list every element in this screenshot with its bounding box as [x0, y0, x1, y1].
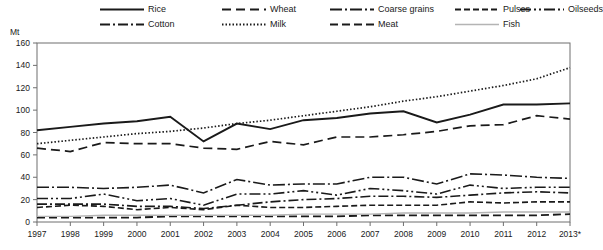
x-tick-label: 1997 — [28, 229, 47, 239]
y-tick-label: 60 — [21, 150, 31, 160]
plot-frame — [37, 43, 570, 222]
x-tick-label: 2008 — [394, 229, 413, 239]
y-tick-label: 120 — [16, 83, 30, 93]
x-tick-label: 2001 — [161, 229, 180, 239]
x-tick-label: 2002 — [194, 229, 213, 239]
x-tick-label: 2010 — [461, 229, 480, 239]
x-tick-label: 2004 — [261, 229, 280, 239]
y-tick-label: 40 — [21, 172, 31, 182]
y-tick-label: 100 — [16, 105, 30, 115]
x-tick-label: 2003 — [227, 229, 246, 239]
x-tick-label: 2000 — [127, 229, 146, 239]
x-tick-label: 2006 — [327, 229, 346, 239]
y-tick-label: 20 — [21, 195, 31, 205]
y-tick-label: 80 — [21, 128, 31, 138]
y-tick-label: 140 — [16, 60, 30, 70]
y-tick-label: 160 — [16, 38, 30, 48]
series-line-rice — [37, 103, 570, 141]
x-tick-label: 1998 — [61, 229, 80, 239]
x-tick-label: 2005 — [294, 229, 313, 239]
x-tick-label: 2011 — [494, 229, 513, 239]
x-tick-label: 1999 — [94, 229, 113, 239]
x-tick-label: 2009 — [427, 229, 446, 239]
series-line-cotton — [37, 192, 570, 209]
x-tick-label: 2013* — [559, 229, 582, 239]
x-tick-label: 2012 — [527, 229, 546, 239]
y-tick-label: 0 — [25, 217, 30, 227]
x-tick-label: 2007 — [361, 229, 380, 239]
series-line-milk — [37, 68, 570, 144]
